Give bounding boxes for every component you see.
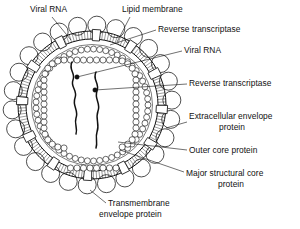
outer-core-protein-bead xyxy=(140,78,146,84)
major-structural-core-protein-bead xyxy=(45,137,51,143)
major-structural-core-protein-bead xyxy=(41,83,47,89)
outer-core-protein-bead xyxy=(72,49,78,55)
major-structural-core-protein-bead xyxy=(129,65,135,71)
outer-core-protein-bead xyxy=(97,157,103,163)
outer-core-protein-bead xyxy=(35,117,41,123)
label-outer-core-protein: Outer core protein xyxy=(189,145,258,155)
outer-core-protein-bead xyxy=(84,158,90,164)
extracellular-envelope-protein-knob xyxy=(140,39,158,57)
major-structural-core-protein-bead xyxy=(133,107,139,113)
major-structural-core-protein-bead xyxy=(87,57,93,63)
major-structural-core-protein-bead xyxy=(80,165,86,171)
outer-core-protein-bead xyxy=(144,114,150,120)
major-structural-core-protein-bead xyxy=(42,71,48,77)
outer-core-protein-bead xyxy=(114,152,120,158)
extracellular-envelope-protein-knob xyxy=(20,47,38,65)
major-structural-core-protein-bead xyxy=(41,107,47,113)
major-structural-core-protein-bead xyxy=(133,113,139,119)
major-structural-core-protein-bead xyxy=(41,77,47,83)
outer-core-protein-bead xyxy=(91,158,97,164)
outer-core-protein-bead xyxy=(109,154,115,160)
major-structural-core-protein-bead xyxy=(41,95,47,101)
major-structural-core-protein-bead xyxy=(61,145,67,151)
outer-core-protein-bead xyxy=(35,87,41,93)
outer-core-protein-bead xyxy=(78,47,84,53)
major-structural-core-protein-bead xyxy=(74,165,80,171)
label-extracellular-envelope-protein-l2: protein xyxy=(219,122,245,132)
outer-core-protein-bead xyxy=(72,155,78,161)
major-structural-core-protein-bead xyxy=(41,101,47,107)
outer-core-protein-bead xyxy=(109,50,115,56)
major-structural-core-protein-bead xyxy=(125,141,131,147)
transmembrane-envelope-protein-segment xyxy=(92,29,100,41)
major-structural-core-protein-bead xyxy=(41,113,47,119)
outer-core-protein-bead xyxy=(97,47,103,53)
major-structural-core-protein-bead xyxy=(41,89,47,95)
major-structural-core-protein-bead xyxy=(133,119,139,125)
figure-canvas: Viral RNALipid membraneReverse transcrip… xyxy=(0,0,300,229)
label-reverse-transcriptase-right: Reverse transcriptase xyxy=(189,78,272,88)
extracellular-envelope-protein-knob xyxy=(26,153,44,171)
major-structural-core-protein-bead xyxy=(42,131,48,137)
major-structural-core-protein-bead xyxy=(133,101,139,107)
label-reverse-transcriptase-top: Reverse transcriptase xyxy=(158,24,241,34)
major-structural-core-protein-bead xyxy=(67,165,73,171)
major-structural-core-protein-bead xyxy=(55,144,61,150)
outer-core-protein-bead xyxy=(78,157,84,163)
major-structural-core-protein-bead xyxy=(93,165,99,171)
major-structural-core-protein-bead xyxy=(106,165,112,171)
major-structural-core-protein-bead xyxy=(113,57,119,63)
transmembrane-envelope-protein-segment xyxy=(156,105,168,113)
outer-core-protein-bead xyxy=(34,93,40,99)
major-structural-core-protein-bead xyxy=(55,58,61,64)
outer-core-protein-bead xyxy=(145,108,151,114)
label-viral-rna-top: Viral RNA xyxy=(30,4,67,14)
major-structural-core-protein-bead xyxy=(87,165,93,171)
major-structural-core-protein-bead xyxy=(119,144,125,150)
outer-core-protein-bead xyxy=(145,102,151,108)
label-lipid-membrane: Lipid membrane xyxy=(122,4,183,14)
major-structural-core-protein-bead xyxy=(133,95,139,101)
extracellular-envelope-protein-knob xyxy=(146,145,164,163)
major-structural-core-protein-bead xyxy=(133,125,139,131)
label-transmembrane-envelope-protein-l2: envelope protein xyxy=(99,209,162,219)
outer-core-protein-bead xyxy=(33,105,39,111)
major-structural-core-protein-bead xyxy=(113,165,119,171)
outer-core-protein-bead xyxy=(103,156,109,162)
outer-core-protein-bead xyxy=(144,90,150,96)
major-structural-core-protein-bead xyxy=(132,71,138,77)
major-structural-core-protein-bead xyxy=(49,61,55,67)
label-major-structural-core-protein-l1: Major structural core xyxy=(186,168,264,178)
outer-core-protein-bead xyxy=(91,46,97,52)
major-structural-core-protein-bead xyxy=(93,57,99,63)
major-structural-core-protein-bead xyxy=(133,83,139,89)
label-extracellular-envelope-protein-l1: Extracellular envelope xyxy=(189,111,273,121)
virus-structure-diagram: Viral RNALipid membraneReverse transcrip… xyxy=(0,0,300,229)
outer-core-protein-bead xyxy=(103,48,109,54)
major-structural-core-protein-bead xyxy=(119,58,125,64)
transmembrane-envelope-protein-segment xyxy=(16,96,28,104)
outer-core-protein-bead xyxy=(34,111,40,117)
major-structural-core-protein-bead xyxy=(80,57,86,63)
outer-core-protein-bead xyxy=(67,153,73,159)
major-structural-core-protein-bead xyxy=(133,89,139,95)
label-transmembrane-envelope-protein-l1: Transmembrane xyxy=(108,198,170,208)
outer-core-protein-bead xyxy=(67,51,73,57)
major-structural-core-protein-bead xyxy=(41,119,47,125)
major-structural-core-protein-bead xyxy=(61,57,67,63)
major-structural-core-protein-bead xyxy=(133,77,139,83)
outer-core-protein-bead xyxy=(33,99,39,105)
major-structural-core-protein-bead xyxy=(74,57,80,63)
outer-core-protein-bead xyxy=(142,120,148,126)
outer-core-protein-bead xyxy=(140,126,146,132)
major-structural-core-protein-bead xyxy=(106,57,112,63)
major-structural-core-protein-bead xyxy=(41,125,47,131)
major-structural-core-protein-bead xyxy=(100,57,106,63)
label-viral-rna-right: Viral RNA xyxy=(184,45,221,55)
label-major-structural-core-protein-l2: protein xyxy=(218,179,244,189)
outer-core-protein-bead xyxy=(145,96,151,102)
major-structural-core-protein-bead xyxy=(100,165,106,171)
major-structural-core-protein-bead xyxy=(132,131,138,137)
outer-core-protein-bead xyxy=(84,46,90,52)
